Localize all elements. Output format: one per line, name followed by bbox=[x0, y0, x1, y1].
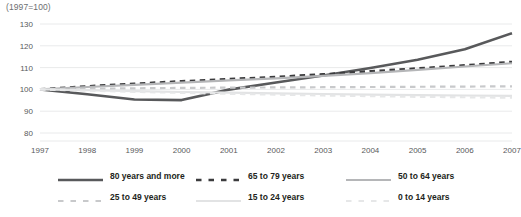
x-tick-label: 2001 bbox=[220, 146, 238, 155]
legend-item[interactable]: 50 to 64 years bbox=[346, 171, 521, 181]
legend-item[interactable]: 25 to 49 years bbox=[0, 192, 196, 202]
x-tick-label: 2002 bbox=[267, 146, 285, 155]
x-tick-label: 1999 bbox=[126, 146, 144, 155]
legend-item[interactable]: 80 years and more bbox=[0, 171, 196, 181]
x-tick-label: 1997 bbox=[31, 146, 49, 155]
legend-label: 25 to 49 years bbox=[110, 192, 166, 202]
x-tick-label: 2000 bbox=[173, 146, 191, 155]
legend-swatch-icon bbox=[346, 192, 391, 202]
legend-swatch-icon bbox=[196, 192, 241, 202]
legend-row: 80 years and more65 to 79 years50 to 64 … bbox=[0, 165, 521, 186]
legend-label: 0 to 14 years bbox=[398, 192, 450, 202]
legend-label: 50 to 64 years bbox=[398, 171, 454, 181]
x-tick-label: 2003 bbox=[314, 146, 332, 155]
y-tick-label: 90 bbox=[24, 107, 33, 116]
y-tick-label: 110 bbox=[20, 64, 33, 73]
x-tick-label: 2004 bbox=[362, 146, 380, 155]
x-tick-label: 1998 bbox=[78, 146, 96, 155]
x-tick-label: 2007 bbox=[503, 146, 521, 155]
x-tick-label: 2005 bbox=[409, 146, 427, 155]
legend-item[interactable]: 0 to 14 years bbox=[346, 192, 521, 202]
y-tick-labels: 8090100110120130 bbox=[20, 20, 34, 138]
legend-label: 65 to 79 years bbox=[248, 171, 304, 181]
legend-swatch-icon bbox=[58, 192, 103, 202]
legend-swatch-icon bbox=[58, 171, 103, 181]
line-chart-plot: 8090100110120130 19971998199920002001200… bbox=[0, 0, 521, 165]
y-tick-label: 80 bbox=[24, 129, 33, 138]
legend-label: 15 to 24 years bbox=[248, 192, 304, 202]
chart-legend: 80 years and more65 to 79 years50 to 64 … bbox=[0, 165, 521, 207]
legend-swatch-icon bbox=[346, 171, 391, 181]
legend-item[interactable]: 65 to 79 years bbox=[196, 171, 346, 181]
legend-label: 80 years and more bbox=[110, 171, 185, 181]
y-tick-label: 100 bbox=[20, 85, 34, 94]
x-tick-labels: 1997199819992000200120022003200420052006… bbox=[31, 146, 521, 155]
legend-swatch-icon bbox=[196, 171, 241, 181]
legend-row: 25 to 49 years15 to 24 years0 to 14 year… bbox=[0, 186, 521, 207]
chart-figure: (1997=100) 8090100110120130 199719981999… bbox=[0, 0, 521, 217]
data-series bbox=[40, 33, 512, 100]
y-tick-label: 130 bbox=[20, 20, 34, 29]
y-tick-label: 120 bbox=[20, 42, 34, 51]
legend-item[interactable]: 15 to 24 years bbox=[196, 192, 346, 202]
x-tick-label: 2006 bbox=[456, 146, 474, 155]
